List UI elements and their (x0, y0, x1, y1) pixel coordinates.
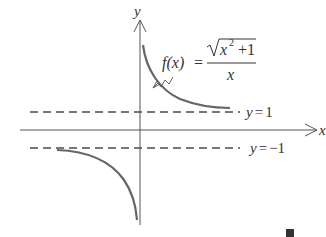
end-mark-icon (286, 229, 294, 237)
y-axis-label: y (132, 3, 141, 19)
x-axis-label: x (318, 122, 326, 138)
asymptote-label-yneg1: y=−1 (248, 140, 285, 156)
curve-lower-branch (57, 150, 137, 220)
curve-upper-branch (143, 45, 230, 108)
formula-lhs: f(x) (162, 54, 184, 72)
function-formula: f(x) = x 2 +1 x (162, 37, 256, 83)
graph-canvas: y x y=1 y=−1 f(x) = x 2 +1 x (0, 0, 326, 237)
formula-plus-one: +1 (234, 41, 255, 58)
formula-equals: = (194, 54, 203, 71)
formula-denominator: x (226, 66, 234, 83)
formula-radicand: x (219, 41, 227, 58)
asymptote-label-y1: y=1 (244, 104, 273, 120)
